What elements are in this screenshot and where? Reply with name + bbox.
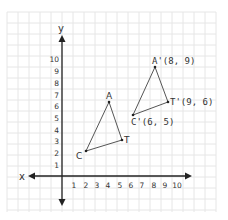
point-a-prime bbox=[154, 66, 157, 69]
x-tick: 2 bbox=[84, 181, 89, 190]
point-a bbox=[108, 101, 111, 104]
y-tick: 6 bbox=[54, 102, 59, 111]
x-tick: 7 bbox=[140, 181, 145, 190]
x-tick: 4 bbox=[106, 181, 111, 190]
x-axis-right-arrow-icon bbox=[185, 173, 192, 180]
x-tick: 6 bbox=[129, 181, 134, 190]
x-axis-label: x bbox=[19, 171, 25, 182]
y-tick: 7 bbox=[54, 91, 59, 100]
y-tick: 5 bbox=[54, 114, 59, 123]
x-tick: 10 bbox=[172, 181, 182, 190]
y-axis-up-arrow-icon bbox=[59, 35, 66, 42]
grid bbox=[7, 12, 216, 212]
point-c bbox=[85, 150, 88, 153]
coordinate-plane: x y 1 2 3 4 5 6 7 8 9 10 1 2 3 4 5 6 7 8… bbox=[0, 0, 228, 220]
y-tick: 8 bbox=[54, 79, 59, 88]
y-tick: 10 bbox=[49, 55, 59, 64]
y-tick: 3 bbox=[54, 137, 59, 146]
y-tick: 4 bbox=[54, 126, 59, 135]
point-t bbox=[121, 139, 124, 142]
x-tick: 5 bbox=[118, 181, 123, 190]
y-tick: 9 bbox=[54, 67, 59, 76]
point-t-prime bbox=[167, 101, 170, 104]
label-t: T bbox=[123, 135, 130, 145]
point-c-prime bbox=[132, 114, 135, 117]
x-tick-labels: 1 2 3 4 5 6 7 8 9 10 bbox=[72, 181, 182, 190]
y-tick: 1 bbox=[54, 161, 59, 170]
y-tick: 2 bbox=[54, 149, 59, 158]
label-a-prime: A'(8, 9) bbox=[152, 56, 195, 66]
x-tick: 8 bbox=[152, 181, 157, 190]
label-c: C bbox=[76, 151, 82, 161]
y-axis: y bbox=[58, 23, 66, 206]
x-tick: 3 bbox=[95, 181, 100, 190]
y-axis-down-arrow-icon bbox=[59, 199, 66, 206]
label-t-prime: T'(9, 6) bbox=[170, 97, 213, 107]
x-tick: 9 bbox=[163, 181, 168, 190]
label-c-prime: C'(6, 5) bbox=[131, 117, 174, 127]
y-axis-label: y bbox=[58, 23, 64, 34]
x-tick: 1 bbox=[72, 181, 77, 190]
label-a: A bbox=[106, 91, 113, 101]
